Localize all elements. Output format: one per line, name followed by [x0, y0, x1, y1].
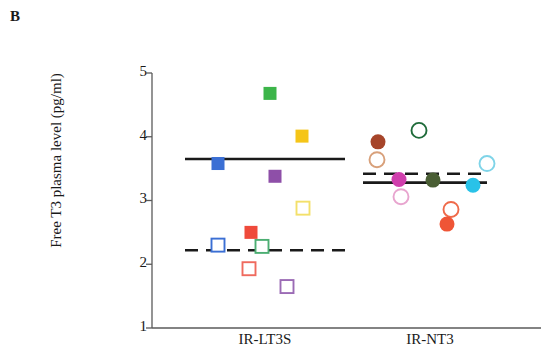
data-point-ir-lt3s-8 [243, 262, 256, 275]
data-point-ir-lt3s-0 [264, 87, 277, 100]
data-point-ir-lt3s-4 [297, 202, 310, 215]
data-point-ir-nt3-2 [370, 152, 385, 167]
figure-panel-b: B Free T3 plasma level (pg/ml) 5 4 3 2 1… [0, 0, 541, 357]
summary-lines [185, 159, 487, 250]
data-point-ir-nt3-5 [426, 173, 441, 188]
scatter-plot-canvas [0, 0, 541, 357]
data-point-ir-lt3s-9 [281, 280, 294, 293]
data-point-ir-nt3-0 [412, 123, 427, 138]
data-point-ir-nt3-1 [371, 134, 386, 149]
data-point-ir-lt3s-7 [256, 240, 269, 253]
data-point-ir-nt3-8 [444, 202, 459, 217]
data-point-ir-lt3s-5 [245, 226, 258, 239]
data-point-ir-nt3-4 [392, 172, 407, 187]
data-point-ir-lt3s-2 [212, 157, 225, 170]
data-point-ir-lt3s-3 [269, 170, 282, 183]
plot-axes [146, 73, 541, 328]
data-point-ir-nt3-9 [440, 217, 455, 232]
data-point-ir-lt3s-6 [212, 239, 225, 252]
data-point-ir-lt3s-1 [296, 130, 309, 143]
data-point-ir-nt3-3 [480, 156, 495, 171]
data-markers [212, 87, 495, 293]
data-point-ir-nt3-7 [394, 189, 409, 204]
data-point-ir-nt3-6 [466, 178, 481, 193]
